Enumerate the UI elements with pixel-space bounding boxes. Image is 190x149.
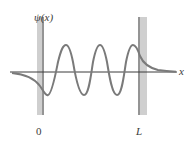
diagram-canvas <box>0 0 190 149</box>
x-axis-label: x <box>179 66 184 77</box>
right-wall <box>138 17 147 115</box>
wavefunction-curve <box>12 45 176 95</box>
right-wall-tick-label: L <box>136 126 142 137</box>
left-wall-tick-label: 0 <box>36 126 42 137</box>
y-axis-label: ψ(x) <box>34 12 53 23</box>
left-wall <box>37 17 44 115</box>
wavefunction-diagram: ψ(x) x 0 L <box>0 0 190 149</box>
